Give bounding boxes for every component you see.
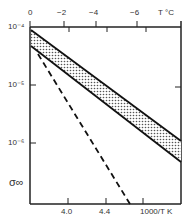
x-axis-label: 1000/T K — [140, 208, 172, 216]
top-tick-m6: −6 — [130, 9, 139, 17]
x-tick-4-0: 4.0 — [61, 208, 72, 216]
top-tick-m4: −4 — [89, 9, 98, 17]
top-tick-m2: −2 — [57, 9, 66, 17]
x-tick-4-4: 4.4 — [99, 208, 110, 216]
top-tick-0: 0 — [28, 9, 32, 17]
chart-plot — [0, 0, 190, 222]
y-tick-1e-4: 10⁻⁴ — [8, 23, 24, 31]
shaded-band — [31, 30, 181, 162]
y-tick-1e-6: 10⁻⁶ — [8, 139, 24, 147]
y-axis-label: σ∞ — [9, 178, 24, 186]
y-tick-1e-5: 10⁻⁵ — [8, 81, 24, 89]
band-lower-line — [31, 46, 181, 162]
top-axis-label: T °C — [158, 9, 174, 17]
band-upper-line — [31, 30, 181, 141]
